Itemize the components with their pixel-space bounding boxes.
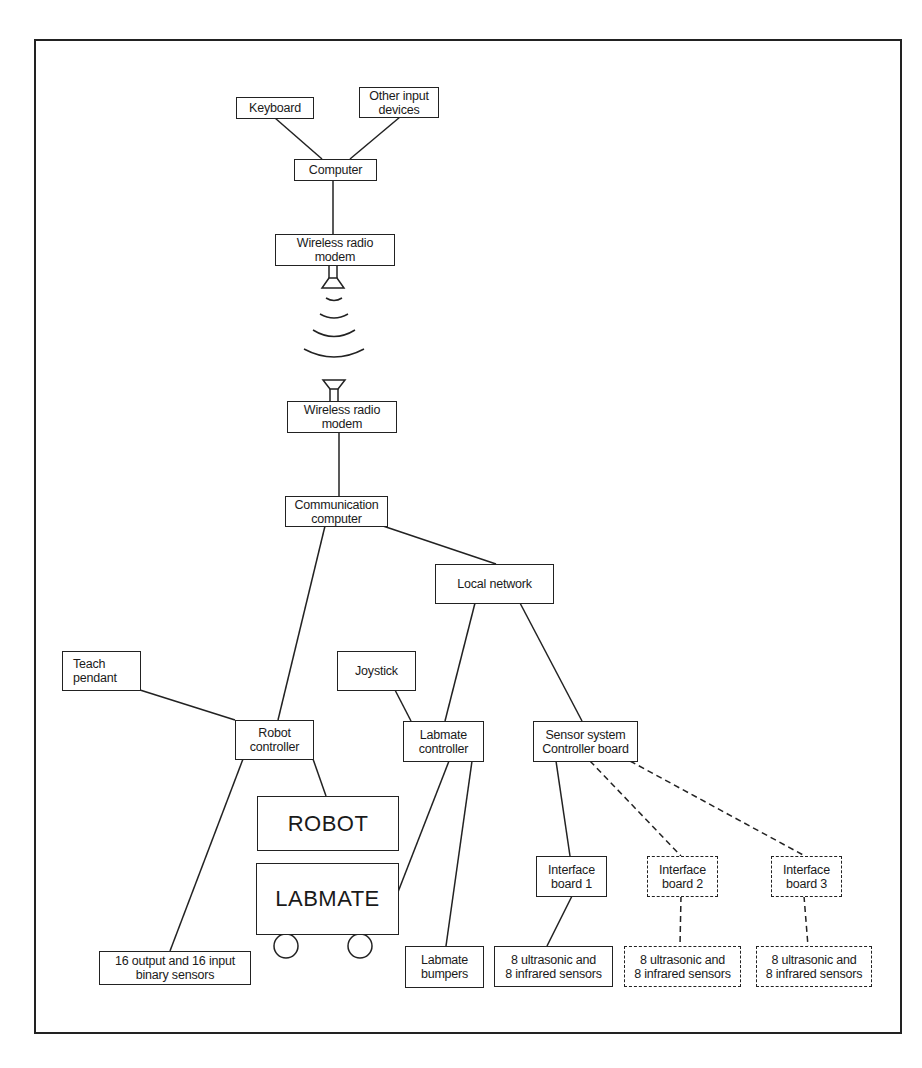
node-sensor-controller-board: Sensor system Controller board (533, 721, 638, 762)
node-label: 8 ultrasonic and 8 infrared sensors (766, 953, 862, 981)
node-joystick: Joystick (337, 651, 416, 691)
node-label: 8 ultrasonic and 8 infrared sensors (505, 953, 601, 981)
edge-if3-sensors3 (804, 896, 808, 946)
node-label: Interface board 3 (783, 863, 830, 891)
edge-otherinput-computer (350, 117, 400, 159)
node-labmate-controller: Labmate controller (403, 721, 484, 762)
node-label: Joystick (355, 664, 398, 678)
node-keyboard: Keyboard (236, 97, 314, 119)
node-sensors-3: 8 ultrasonic and 8 infrared sensors (756, 946, 872, 987)
node-other-input-devices: Other input devices (359, 87, 439, 118)
node-communication-computer: Communication computer (285, 496, 388, 527)
edge-pendant-robotctrl (140, 690, 235, 720)
node-label: Teach pendant (73, 657, 117, 685)
edge-sensorctrl-if3 (630, 761, 805, 856)
node-label: Wireless radio modem (297, 236, 373, 264)
node-interface-board-1: Interface board 1 (536, 856, 607, 897)
node-local-network: Local network (435, 564, 554, 604)
node-sensors-1: 8 ultrasonic and 8 infrared sensors (494, 946, 613, 987)
node-wireless-modem-top: Wireless radio modem (275, 234, 395, 266)
antenna-top-icon (322, 265, 344, 288)
node-labmate: LABMATE (256, 863, 399, 935)
node-label: Keyboard (249, 101, 301, 115)
node-label: Computer (309, 163, 362, 177)
edge-sensorctrl-if2 (590, 761, 681, 856)
edge-comm-localnet (383, 526, 496, 564)
node-label: Labmate bumpers (421, 953, 468, 981)
node-label: Local network (457, 577, 532, 591)
node-label: 8 ultrasonic and 8 infrared sensors (634, 953, 730, 981)
node-label: Robot controller (250, 726, 299, 754)
node-interface-board-2: Interface board 2 (647, 856, 718, 897)
node-label: Other input devices (369, 89, 429, 117)
node-label: 16 output and 16 input binary sensors (115, 954, 235, 982)
node-label: Interface board 2 (659, 863, 706, 891)
radio-waves-icon (304, 298, 364, 357)
connection-lines (0, 0, 922, 1068)
node-label: Labmate controller (419, 728, 468, 756)
wheel-right-icon (348, 934, 372, 958)
node-interface-board-3: Interface board 3 (771, 856, 842, 897)
node-teach-pendant: Teach pendant (62, 651, 141, 691)
node-robot-controller: Robot controller (235, 720, 314, 760)
edge-sensorctrl-if1 (556, 761, 570, 856)
edge-if1-sensors1 (547, 896, 572, 946)
node-binary-sensors: 16 output and 16 input binary sensors (99, 951, 251, 985)
edge-localnet-sensorctrl (520, 603, 582, 721)
node-wireless-modem-bottom: Wireless radio modem (287, 401, 397, 433)
edge-robotctrl-binary (170, 759, 243, 951)
node-label: Sensor system Controller board (542, 728, 628, 756)
node-labmate-bumpers: Labmate bumpers (405, 946, 484, 988)
edge-comm-robotctrl (278, 526, 325, 720)
node-label: LABMATE (275, 892, 380, 906)
edge-labctrl-labmate (398, 761, 449, 892)
node-label: Interface board 1 (548, 863, 595, 891)
edge-keyboard-computer (275, 118, 322, 159)
edge-joystick-labctrl (395, 690, 411, 721)
node-computer: Computer (294, 159, 377, 181)
edge-labctrl-bumpers (446, 761, 472, 946)
wheel-left-icon (274, 934, 298, 958)
node-robot: ROBOT (257, 796, 399, 851)
node-label: Communication computer (294, 498, 378, 526)
edge-if2-sensors2 (680, 896, 681, 946)
node-label: Wireless radio modem (304, 403, 380, 431)
node-sensors-2: 8 ultrasonic and 8 infrared sensors (624, 946, 741, 987)
antenna-bottom-icon (323, 380, 345, 401)
edge-localnet-labctrl (445, 603, 475, 721)
node-label: ROBOT (288, 817, 369, 831)
edge-robotctrl-robot (313, 759, 326, 796)
